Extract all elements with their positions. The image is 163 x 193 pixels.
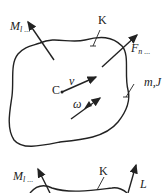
moment-label-bottom: Ml ...	[13, 170, 33, 184]
moment-label: Ml ...	[10, 20, 30, 34]
body-outline-bottom	[30, 186, 127, 193]
force-label: Fn ...	[131, 42, 150, 56]
velocity-label: v	[69, 75, 74, 87]
angular-momentum-label: L	[140, 178, 147, 190]
moment-arrow	[28, 22, 54, 60]
center-label: C	[52, 84, 60, 96]
point-k-label-bottom: K	[99, 165, 108, 177]
angular-momentum-arrow	[128, 165, 136, 193]
mass-inertia-label: m,J	[144, 76, 161, 88]
point-k-label: K	[98, 14, 107, 26]
body-outline-top	[9, 38, 129, 147]
velocity-arrow	[62, 77, 96, 92]
moment-arrow-bottom	[38, 169, 50, 193]
angular-velocity-label: ω	[73, 98, 81, 110]
